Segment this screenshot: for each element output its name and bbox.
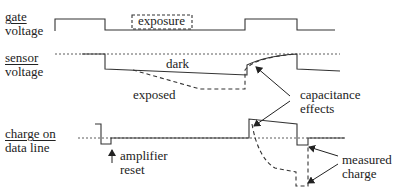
exposure-box [132, 15, 192, 29]
charge-exposed-waveform [252, 124, 308, 186]
gate-waveform [55, 19, 335, 31]
sensor-dark-waveform [82, 54, 340, 75]
capacitance-arrow-upper [256, 67, 290, 96]
measured-arrow-upper [309, 147, 338, 156]
charge-waveform [95, 119, 345, 145]
measured-arrow-lower [308, 164, 338, 183]
timing-diagram [0, 0, 399, 196]
